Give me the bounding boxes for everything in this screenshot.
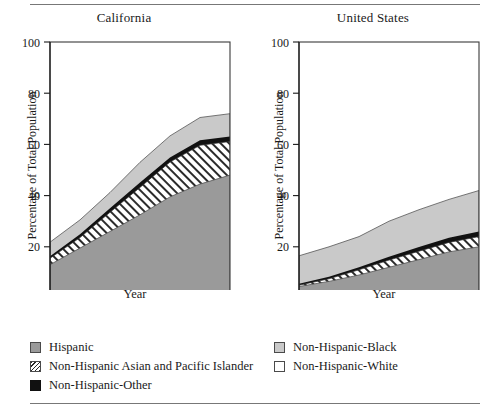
y-tick-40: 40 (277, 189, 289, 203)
y-tick-40: 40 (28, 189, 40, 203)
panel-title-united-states: United States (253, 10, 493, 26)
legend-column-right: Non-Hispanic-Black Non-Hispanic-White (274, 338, 398, 376)
legend-label-hispanic: Hispanic (49, 341, 93, 354)
legend-swatch-asian-pacific-islander-icon (30, 361, 41, 372)
legend-label-asian-pacific-islander: Non-Hispanic Asian and Pacific Islander (49, 360, 253, 373)
plot-area-california: 0 20 40 60 80 100 1970 1980 1990 2000 20… (4, 30, 244, 290)
x-axis-label-california: Year (26, 287, 244, 302)
y-tick-80: 80 (277, 87, 289, 101)
y-tick-100: 100 (271, 36, 289, 50)
legend-swatch-non-hispanic-white-icon (274, 361, 285, 372)
panel-title-california: California (4, 10, 244, 26)
plot-area-united-states: 0 20 40 60 80 100 1970 1980 1990 2000 20… (253, 30, 493, 290)
chart-panel-united-states: United States Percentage of Total Popula… (253, 10, 493, 310)
top-horizontal-rule (30, 4, 480, 5)
legend-item-non-hispanic-black: Non-Hispanic-Black (274, 338, 398, 357)
y-tick-80: 80 (28, 87, 40, 101)
legend-swatch-hispanic-icon (30, 342, 41, 353)
chart-legend: Hispanic Non-Hispanic Asian and Pacific … (0, 338, 499, 396)
y-tick-labels-california: 0 20 40 60 80 100 (22, 36, 40, 291)
y-tick-60: 60 (277, 138, 289, 152)
legend-swatch-non-hispanic-black-icon (274, 342, 285, 353)
stacked-areas-california (50, 42, 230, 290)
legend-label-non-hispanic-other: Non-Hispanic-Other (49, 379, 152, 392)
bottom-horizontal-rule (30, 403, 480, 404)
x-axis-label-united-states: Year (275, 287, 493, 302)
legend-item-non-hispanic-other: Non-Hispanic-Other (30, 376, 253, 395)
legend-swatch-non-hispanic-other-icon (30, 380, 41, 391)
y-tick-labels-united-states: 0 20 40 60 80 100 (271, 36, 289, 291)
y-tick-20: 20 (277, 240, 289, 254)
legend-label-non-hispanic-white: Non-Hispanic-White (293, 360, 398, 373)
y-tick-20: 20 (28, 240, 40, 254)
y-tick-60: 60 (28, 138, 40, 152)
y-tick-100: 100 (22, 36, 40, 50)
legend-item-non-hispanic-white: Non-Hispanic-White (274, 357, 398, 376)
legend-item-hispanic: Hispanic (30, 338, 253, 357)
legend-label-non-hispanic-black: Non-Hispanic-Black (293, 341, 396, 354)
stacked-areas-united-states (299, 42, 479, 290)
legend-column-left: Hispanic Non-Hispanic Asian and Pacific … (30, 338, 253, 395)
legend-item-asian-pacific-islander: Non-Hispanic Asian and Pacific Islander (30, 357, 253, 376)
chart-panel-california: California Percentage of Total Populatio… (4, 10, 244, 310)
